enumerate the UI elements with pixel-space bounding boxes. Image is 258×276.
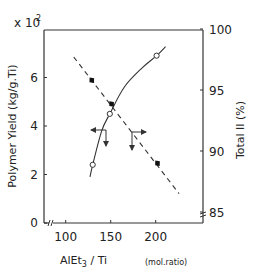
x-label-main: AlEt [60,254,83,267]
y-right-tick-label: 90 [209,145,224,159]
series [74,47,179,194]
y-left-label: Polymer Yield (kg/g.Ti) [6,64,19,187]
data-point-total-ii [87,76,96,85]
y-left-multiplier-exponent: 2 [36,14,41,23]
y-left-tick-label: 2 [30,168,38,182]
y-right-tick-label: 100 [209,23,232,37]
data-point-yield [90,162,95,167]
chart: 1001502000246859095100 x 10 2 Polymer Yi… [0,0,258,276]
y-right-tick-label: 95 [209,84,224,98]
y-left-tick-label: 0 [30,216,38,230]
x-label: AlEt3 / Ti [60,254,107,269]
y-right-label: Total II (%) [234,101,247,160]
y-left-tick-label: 6 [30,71,38,85]
x-axis-break-mark [51,220,53,226]
series-line-total-ii [74,57,179,194]
y-left-tick-label: 4 [30,119,38,133]
axis-ticks: 1001502000246859095100 [30,23,232,244]
x-label-rest: / Ti [87,254,107,267]
data-point-yield [154,53,159,58]
plot-frame [44,30,206,226]
x-label-unit: (mol.ratio) [145,258,187,267]
data-point-yield [107,111,112,116]
y-right-tick-label: 85 [209,206,224,220]
x-tick-label: 150 [99,230,122,244]
x-tick-label: 100 [54,230,77,244]
series-line-yield [90,47,166,177]
x-tick-label: 200 [144,230,167,244]
